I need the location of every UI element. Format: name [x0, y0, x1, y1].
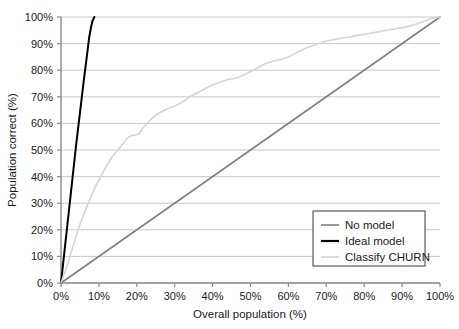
y-tick-label: 50% — [31, 144, 53, 156]
y-tick-label: 20% — [31, 224, 53, 236]
x-axis-tick-labels: 0%10%20%30%40%50%60%70%80%90%100% — [53, 290, 454, 302]
x-tick-label: 40% — [202, 290, 224, 302]
x-tick-label: 30% — [164, 290, 186, 302]
x-tick-label: 100% — [426, 290, 454, 302]
legend-label-ideal-model[interactable]: Ideal model — [345, 235, 404, 247]
y-tick-label: 10% — [31, 250, 53, 262]
chart-legend[interactable]: No modelIdeal modelClassify CHURN — [313, 211, 430, 266]
x-tick-label: 50% — [239, 290, 261, 302]
x-tick-label: 70% — [315, 290, 337, 302]
y-tick-label: 90% — [31, 38, 53, 50]
y-axis-tick-labels: 0%10%20%30%40%50%60%70%80%90%100% — [25, 11, 53, 289]
x-tick-label: 20% — [126, 290, 148, 302]
y-tick-label: 80% — [31, 64, 53, 76]
y-tick-label: 100% — [25, 11, 53, 23]
y-axis-title: Population correct (%) — [6, 93, 18, 207]
x-axis-title: Overall population (%) — [193, 308, 307, 320]
x-tick-label: 90% — [391, 290, 413, 302]
x-tick-label: 60% — [277, 290, 299, 302]
x-tick-label: 80% — [353, 290, 375, 302]
y-tick-label: 40% — [31, 171, 53, 183]
y-tick-label: 0% — [37, 277, 53, 289]
chart-container: 0%10%20%30%40%50%60%70%80%90%100% 0%10%2… — [0, 0, 459, 329]
y-tick-label: 30% — [31, 197, 53, 209]
y-tick-label: 60% — [31, 117, 53, 129]
legend-label-no-model[interactable]: No model — [345, 219, 394, 231]
legend-label-classify-churn[interactable]: Classify CHURN — [345, 251, 430, 263]
x-tick-label: 10% — [88, 290, 110, 302]
x-tick-label: 0% — [53, 290, 69, 302]
roc-gains-chart: 0%10%20%30%40%50%60%70%80%90%100% 0%10%2… — [0, 0, 459, 329]
y-tick-label: 70% — [31, 91, 53, 103]
